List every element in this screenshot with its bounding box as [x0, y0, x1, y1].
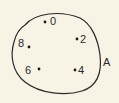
element-label: 4	[78, 64, 84, 76]
set-name-label: A	[103, 56, 111, 68]
element-dot	[38, 68, 41, 71]
element-dot	[28, 46, 31, 49]
element-8: 8	[18, 37, 30, 49]
element-label: 6	[25, 64, 31, 76]
element-dot	[44, 21, 47, 24]
element-label: 0	[50, 15, 56, 27]
element-label: 8	[18, 37, 24, 49]
element-2: 2	[76, 33, 87, 45]
set-boundary-curve	[12, 14, 100, 94]
element-label: 2	[80, 33, 86, 45]
element-dot	[74, 69, 77, 72]
element-6: 6	[25, 64, 40, 76]
element-dot	[76, 38, 79, 41]
diagram-svg: 0 2 4 6 8 A	[0, 0, 119, 103]
element-0: 0	[44, 15, 57, 27]
element-4: 4	[74, 64, 85, 76]
set-diagram: 0 2 4 6 8 A	[0, 0, 119, 103]
